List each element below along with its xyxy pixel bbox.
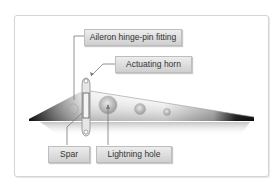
actuating-horn-label: Actuating horn xyxy=(115,56,192,73)
lightning-hole-small xyxy=(164,109,171,116)
lightning-hole-medium xyxy=(135,104,146,115)
spar-label: Spar xyxy=(48,146,90,163)
wing-shadow xyxy=(40,122,250,136)
lightning-hole-label: Lightning hole xyxy=(96,146,172,163)
hinge-fitting-icon xyxy=(82,78,90,136)
leader-actuating-horn xyxy=(91,64,115,76)
hinge-pin-fitting-label: Aileron hinge-pin fitting xyxy=(84,29,182,46)
